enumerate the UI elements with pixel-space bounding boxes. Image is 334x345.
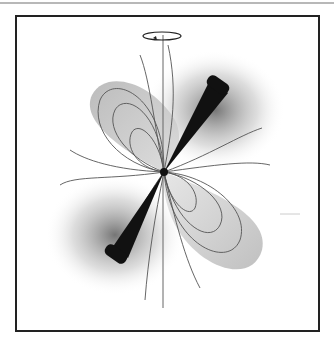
- neutron-star: [160, 168, 168, 176]
- pulsar-diagram: [0, 0, 334, 345]
- rotation-arrow-icon: [143, 32, 181, 40]
